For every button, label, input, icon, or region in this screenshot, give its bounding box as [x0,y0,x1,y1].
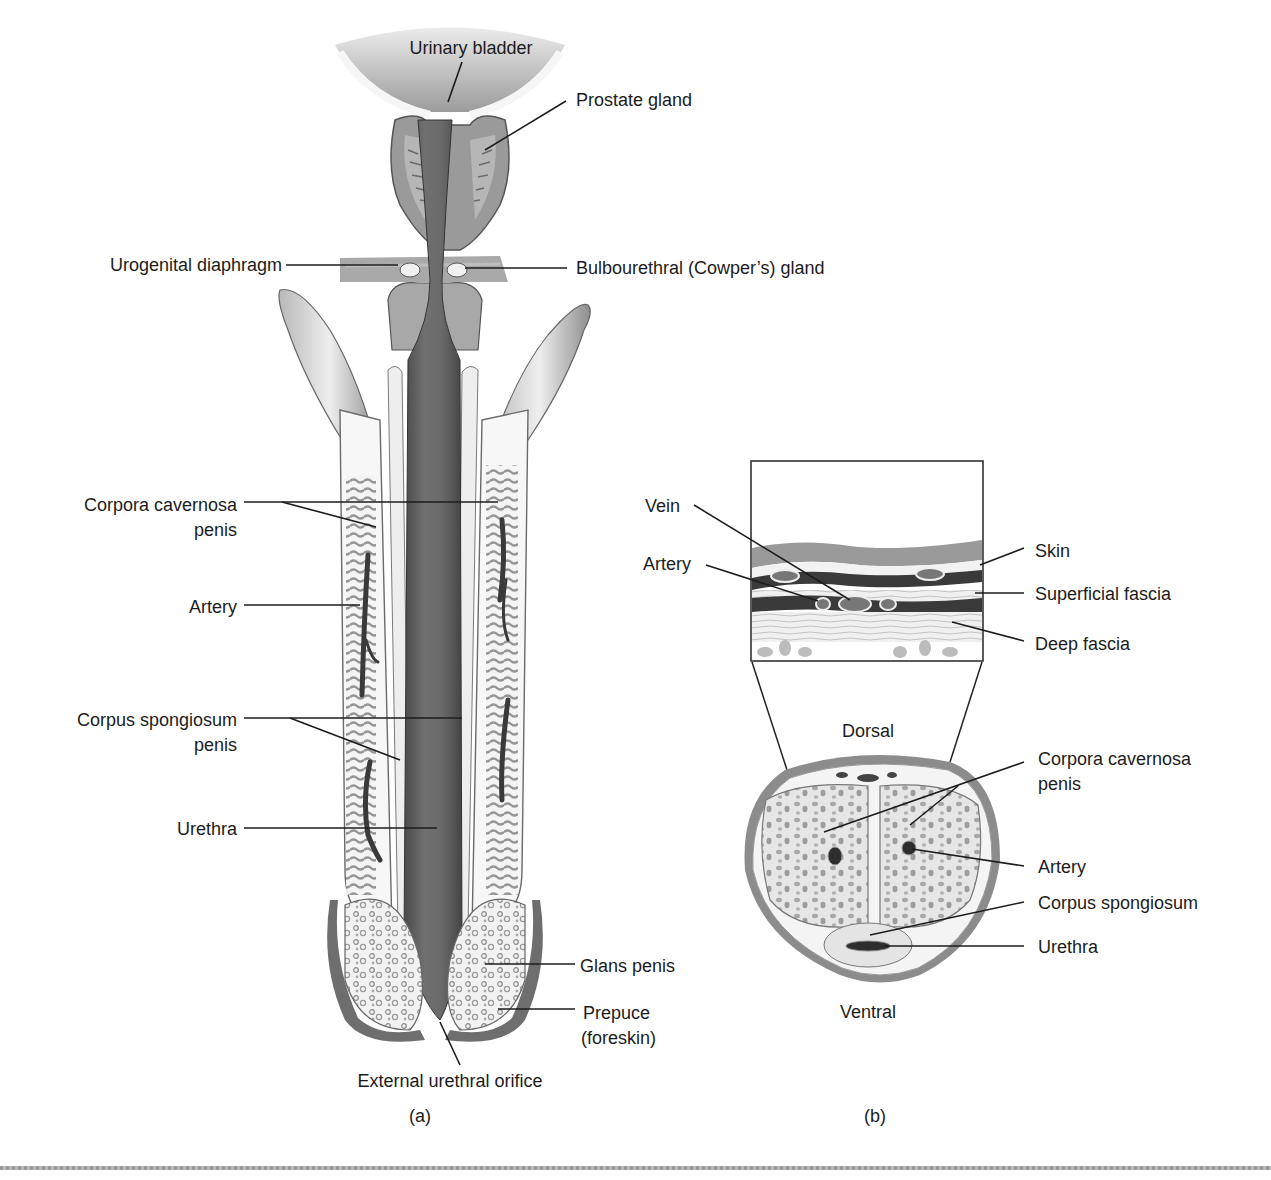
label-prepuce-line1: Prepuce [583,1002,650,1024]
caption-panel-a: (a) [400,1105,440,1127]
label-external-urethral-orifice: External urethral orifice [330,1070,570,1092]
label-corpora-cavernosa-a-line1: Corpora cavernosa [10,494,237,516]
label-vein: Vein [645,495,680,517]
label-dorsal: Dorsal [820,720,916,742]
label-skin: Skin [1035,540,1070,562]
label-bulbourethral-gland: Bulbourethral (Cowper’s) gland [576,257,824,279]
urogenital-diaphragm-shape [340,256,508,282]
cross-section-shape [745,755,1001,982]
label-superficial-fascia: Superficial fascia [1035,583,1171,605]
label-corpus-spongiosum-a-line2: penis [10,734,237,756]
page-bottom-rule [0,1166,1271,1170]
label-corpora-cavernosa-b-line2: penis [1038,773,1081,795]
label-artery-b: Artery [1038,856,1086,878]
anatomy-figure: Urinary bladder Prostate gland Urogenita… [0,0,1271,1180]
label-glans-penis: Glans penis [580,955,675,977]
label-corpus-spongiosum-b: Corpus spongiosum [1038,892,1198,914]
label-corpora-cavernosa-b-line1: Corpora cavernosa [1038,748,1191,770]
label-corpus-spongiosum-a-line1: Corpus spongiosum [10,709,237,731]
caption-panel-b: (b) [855,1105,895,1127]
label-artery-a: Artery [10,596,237,618]
label-corpora-cavernosa-a-line2: penis [10,519,237,541]
urethra-shape [404,120,462,1020]
label-urethra-b: Urethra [1038,936,1098,958]
label-urinary-bladder: Urinary bladder [396,37,546,59]
label-deep-fascia: Deep fascia [1035,633,1130,655]
label-urogenital-diaphragm: Urogenital diaphragm [60,254,282,276]
label-ventral: Ventral [820,1001,916,1023]
label-prostate-gland: Prostate gland [576,89,692,111]
label-prepuce-line2: (foreskin) [581,1027,656,1049]
label-urethra-a: Urethra [10,818,237,840]
label-artery-inset: Artery [643,553,691,575]
